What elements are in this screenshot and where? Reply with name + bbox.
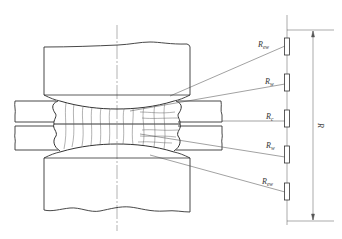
label-r-w-bottom: Rw [265, 141, 275, 151]
dimension-total [287, 30, 334, 221]
resistor-w-top [285, 74, 290, 91]
lower-sheet [15, 126, 223, 150]
resistance-diagram: Rew Rw Rc Rw Rew R [0, 0, 342, 239]
grain-lines [64, 103, 178, 149]
resistor-w-bottom [285, 146, 290, 163]
resistor-ew-top [285, 38, 290, 55]
leader-lines [130, 46, 285, 192]
upper-sheet [15, 101, 222, 122]
resistor-ew-bottom [285, 183, 290, 200]
label-r-ew-bottom: Rew [261, 177, 273, 187]
label-r-w-top: Rw [264, 77, 274, 87]
dimension-label: R [316, 122, 325, 128]
label-r-c: Rc [265, 112, 274, 122]
resistor-c [285, 110, 290, 127]
label-r-ew-top: Rew [257, 40, 269, 50]
